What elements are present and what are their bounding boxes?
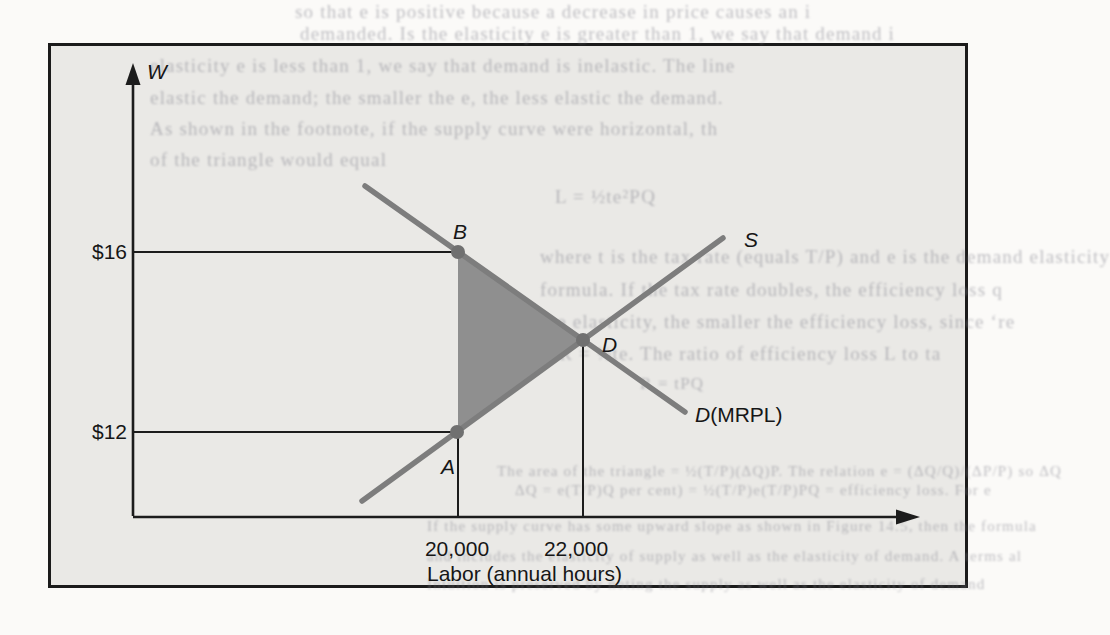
- point-d-label: D: [602, 333, 617, 356]
- price-12-label: $12: [92, 420, 127, 443]
- x-axis-title: Labor (annual hours): [427, 562, 622, 585]
- x-tick-22000-label: 22,000: [544, 537, 608, 560]
- price-16-label: $16: [92, 240, 127, 263]
- demand-curve-label-suffix: (MRPL): [710, 403, 782, 426]
- demand-curve-label-d: D: [695, 403, 710, 426]
- labor-market-chart: W $16 $12 B A D S D(MRPL) 20,000 22,000 …: [48, 43, 968, 588]
- demand-curve-label: D(MRPL): [695, 403, 783, 426]
- point-a-dot: [450, 425, 464, 439]
- x-tick-20000-label: 20,000: [425, 537, 489, 560]
- point-d-dot: [576, 333, 590, 347]
- supply-curve: [362, 238, 723, 501]
- bleed-text-fragment: demanded. Is the elasticity e is greater…: [300, 23, 895, 45]
- bleed-text-fragment: so that e is positive because a decrease…: [295, 1, 811, 23]
- wage-axis-arrow-icon: [126, 63, 141, 85]
- supply-curve-label: S: [744, 228, 758, 251]
- point-b-dot: [451, 245, 465, 259]
- labor-axis-arrow-icon: [896, 510, 920, 525]
- wage-axis-label: W: [147, 60, 169, 83]
- point-a-label: A: [439, 455, 455, 478]
- efficiency-loss-triangle: [458, 252, 583, 432]
- point-b-label: B: [453, 220, 467, 243]
